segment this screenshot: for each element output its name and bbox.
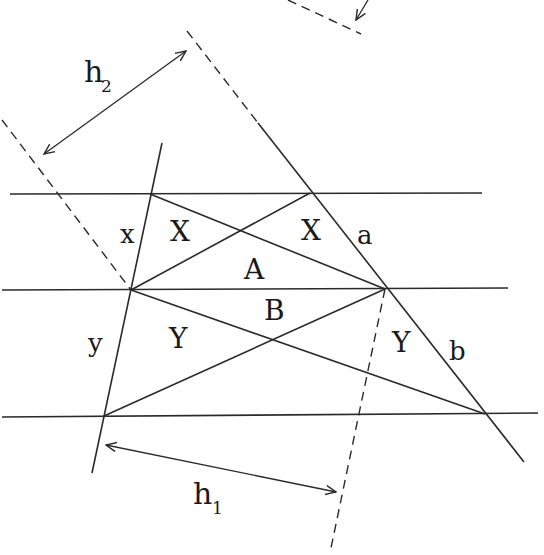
label-Y-left: Y <box>168 322 188 355</box>
h1-arrow <box>106 445 336 492</box>
label-B: B <box>264 294 285 327</box>
left-dashed-line <box>2 120 131 290</box>
trapezoid-diagram: h 2 h 1 x X X a A B y Y Y b <box>0 0 544 555</box>
left-transversal-line <box>92 143 162 473</box>
top-horizontal-line <box>10 193 482 194</box>
label-b: b <box>449 336 466 366</box>
lower-diagonal-2 <box>104 289 385 416</box>
label-h1: h <box>193 476 212 511</box>
label-Y-right: Y <box>391 326 411 359</box>
h2-arrow <box>44 51 186 154</box>
label-X-right: X <box>301 214 321 247</box>
label-X-left: X <box>170 215 190 248</box>
top-partial-arrow <box>356 0 368 20</box>
top-dashed-line <box>288 0 361 34</box>
label-h2-subscript: 2 <box>101 76 112 96</box>
bottom-horizontal-line <box>2 413 538 417</box>
middle-horizontal-line <box>2 288 508 290</box>
label-A: A <box>243 253 265 286</box>
label-a: a <box>357 220 373 250</box>
right-transversal-line <box>258 123 524 462</box>
label-x: x <box>120 219 135 249</box>
label-y: y <box>87 328 103 358</box>
right-dashed-line-bottom <box>331 289 385 548</box>
right-dashed-line-top <box>187 31 258 123</box>
upper-diagonal-2 <box>131 193 310 290</box>
label-h1-subscript: 1 <box>212 498 223 518</box>
